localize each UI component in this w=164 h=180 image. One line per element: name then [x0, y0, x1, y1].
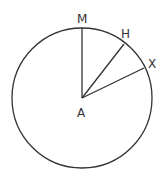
radius-ax: [82, 68, 144, 98]
diagram-canvas: M H X A: [0, 0, 164, 180]
label-m: M: [77, 12, 87, 26]
circle-diagram: M H X A: [0, 0, 164, 180]
label-h: H: [121, 27, 130, 41]
label-a: A: [77, 106, 86, 120]
label-x: X: [148, 57, 156, 71]
radius-ah: [82, 44, 124, 98]
